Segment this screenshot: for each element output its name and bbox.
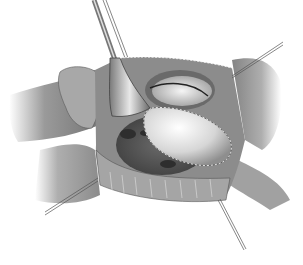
left-lower-tissue (35, 144, 100, 203)
suture-bottom-right (218, 200, 244, 250)
upper-opening-tissue (152, 76, 212, 106)
cavity-opening-1 (120, 129, 136, 139)
illustration-svg (0, 0, 303, 265)
cavity-opening-3 (160, 160, 176, 168)
right-lower-tissue (230, 160, 290, 210)
surgical-illustration (0, 0, 303, 265)
retractor-shaft-highlight (94, 0, 115, 60)
